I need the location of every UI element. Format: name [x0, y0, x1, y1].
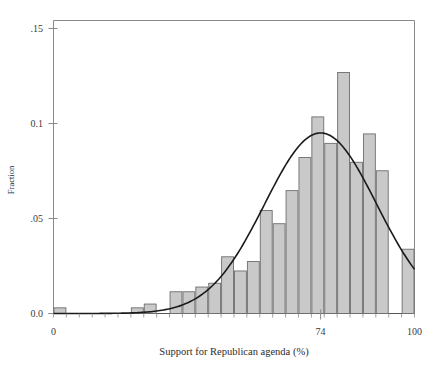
y-tick-label-0.05: .05	[31, 213, 44, 224]
y-axis-title: Fraction	[6, 165, 16, 194]
histogram-bar	[376, 171, 388, 314]
histogram-bar	[312, 117, 324, 314]
histogram-figure: .15 0.1 .05 0.0 Fraction 0 74 100 Suppor…	[0, 0, 431, 367]
x-tick-label-0: 0	[51, 326, 56, 337]
histogram-bar	[338, 72, 350, 313]
y-tick-label-0.0: 0.0	[31, 308, 44, 319]
histogram-bar	[299, 158, 311, 314]
histogram-bar	[351, 162, 363, 313]
x-tick-label-74: 74	[316, 326, 326, 337]
histogram-bar	[222, 257, 234, 314]
x-axis-title: Support for Republican agenda (%)	[159, 346, 309, 358]
histogram-bar	[286, 191, 298, 314]
histogram-bar	[325, 143, 337, 313]
histogram-bars	[54, 72, 414, 313]
chart-canvas: .15 0.1 .05 0.0 Fraction 0 74 100 Suppor…	[0, 0, 431, 367]
histogram-bar	[273, 224, 285, 314]
histogram-bar	[170, 292, 182, 314]
histogram-bar	[247, 262, 259, 314]
histogram-bar	[363, 134, 375, 314]
histogram-bar	[260, 210, 272, 313]
y-tick-label-0.1: 0.1	[31, 118, 44, 129]
histogram-bar	[54, 308, 66, 314]
y-tick-label-0.15: .15	[31, 23, 44, 34]
histogram-bar	[235, 271, 247, 314]
x-tick-label-100: 100	[407, 326, 422, 337]
